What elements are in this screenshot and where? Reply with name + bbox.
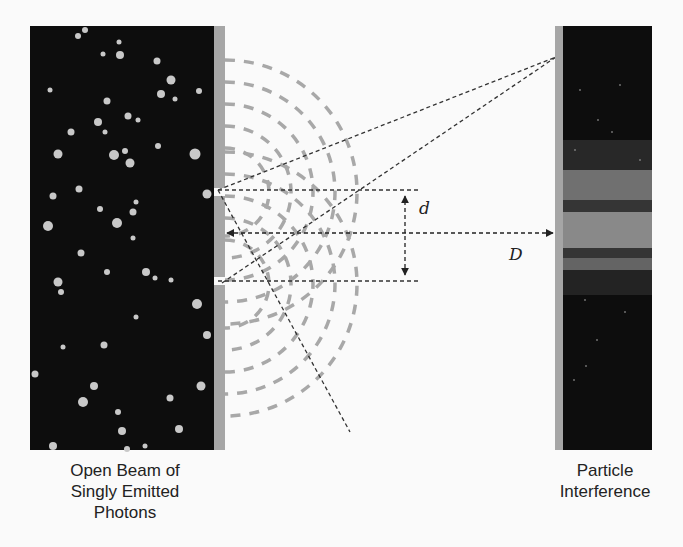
double-slit-barrier: [214, 26, 225, 450]
caption-line: Interference: [540, 481, 670, 502]
screen-distance-label: D: [509, 244, 523, 264]
slit-separation-label: d: [419, 198, 430, 218]
caption-line: Singly Emitted: [20, 481, 230, 502]
photon-beam-panel: [30, 26, 214, 452]
caption-line: Photons: [20, 502, 230, 523]
detector-caption: Particle Interference: [540, 460, 670, 502]
wavefronts: [225, 60, 357, 416]
caption-line: Open Beam of: [20, 460, 230, 481]
caption-line: Particle: [540, 460, 670, 481]
detector-screen: [555, 26, 652, 450]
ray-lines: [218, 57, 556, 432]
interference-fringes: [563, 140, 652, 295]
photon-beam-caption: Open Beam of Singly Emitted Photons: [20, 460, 230, 523]
